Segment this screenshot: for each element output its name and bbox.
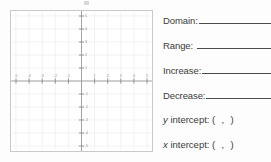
svg-text:3: 3 [120, 74, 122, 78]
svg-text:-5: -5 [85, 144, 88, 148]
svg-text:2: 2 [85, 53, 87, 57]
top-edge-artifact [84, 1, 89, 5]
y-intercept-close: ) [230, 114, 233, 125]
x-intercept-label: intercept: ( [170, 139, 215, 150]
svg-text:-4: -4 [27, 74, 30, 78]
svg-text:5: 5 [85, 14, 87, 18]
svg-text:-3: -3 [41, 74, 44, 78]
domain-blank[interactable] [199, 14, 271, 24]
x-intercept-close: ) [230, 139, 233, 150]
answers-panel: Domain: Range: Increase: Decrease: y int… [161, 0, 271, 162]
answer-row-y-intercept: y intercept: ( , ) [163, 114, 271, 128]
svg-text:2: 2 [107, 74, 109, 78]
decrease-label: Decrease: [163, 90, 205, 101]
svg-text:4: 4 [133, 74, 135, 78]
answer-row-range: Range: [163, 39, 271, 53]
svg-text:-5: -5 [14, 74, 17, 78]
svg-text:-2: -2 [85, 105, 88, 109]
increase-blank[interactable] [202, 64, 271, 74]
svg-text:5: 5 [146, 74, 148, 78]
answer-row-increase: Increase: [163, 64, 271, 78]
domain-label: Domain: [163, 15, 198, 26]
svg-text:-4: -4 [85, 131, 88, 135]
range-blank[interactable] [197, 39, 271, 49]
svg-text:1: 1 [94, 74, 96, 78]
svg-text:3: 3 [85, 40, 87, 44]
increase-label: Increase: [163, 65, 201, 76]
svg-text:1: 1 [85, 66, 87, 70]
answer-row-decrease: Decrease: [163, 89, 271, 103]
decrease-blank[interactable] [206, 89, 271, 99]
y-intercept-label: intercept: ( [170, 114, 215, 125]
coordinate-grid-svg: -5-4-3-2-112345-5-4-3-2-112345 [11, 11, 152, 151]
svg-text:-2: -2 [54, 74, 57, 78]
coordinate-graph: -5-4-3-2-112345-5-4-3-2-112345 [10, 10, 153, 152]
answer-row-domain: Domain: [163, 14, 271, 28]
svg-text:4: 4 [85, 27, 87, 31]
svg-text:-1: -1 [67, 74, 70, 78]
answer-row-x-intercept: x intercept: ( , ) [163, 139, 271, 153]
svg-text:-3: -3 [85, 118, 88, 122]
svg-text:-1: -1 [85, 92, 88, 96]
range-label: Range: [163, 40, 193, 51]
